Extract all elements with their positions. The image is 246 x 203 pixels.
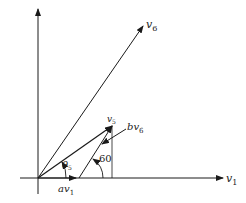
v6-label: v6 [146,18,157,33]
v1-label: v1 [226,172,237,187]
theta5-label: θ5 [62,159,72,171]
av1-label: av1 [58,183,74,197]
bv6-vector [79,126,112,178]
v6-vector [38,26,143,178]
vector-diagram: v6 v5 bv6 60 θ5 av1 v1 [0,0,246,203]
angle-60-label: 60 [99,153,112,164]
v5-label: v5 [107,114,116,125]
bv6-label: bv6 [127,121,144,135]
v5-vector [38,126,112,178]
